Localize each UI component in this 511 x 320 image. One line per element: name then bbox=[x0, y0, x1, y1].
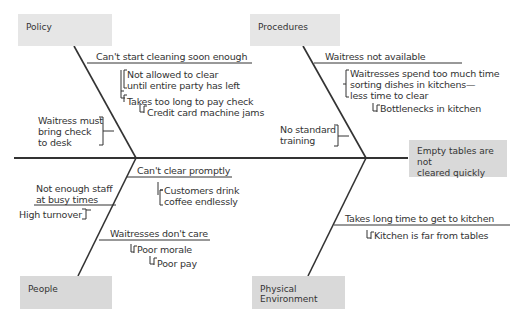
cause-people-1: Can't clear promptly bbox=[137, 165, 230, 176]
subsubcause-procedures-1a: Bottlenecks in kitchen bbox=[380, 103, 481, 114]
cause-policy-2-line3: to desk bbox=[38, 137, 71, 148]
cause-physical-1: Takes long time to get to kitchen bbox=[345, 213, 494, 224]
category-physical-label: Physical Environment bbox=[260, 284, 317, 304]
category-procedures: Procedures bbox=[250, 14, 340, 46]
effect-line-2: cleared quickly bbox=[417, 168, 499, 179]
cause-policy-2-line1: Waitress must bbox=[38, 115, 103, 126]
cause-people-2-line1: Not enough staff bbox=[36, 183, 112, 194]
subcause-procedures-1a-line1: Waitresses spend too much time bbox=[350, 68, 500, 79]
subcause-people-1a-line1: Customers drink bbox=[164, 185, 239, 196]
cause-procedures-2-line1: No standard bbox=[280, 124, 336, 135]
category-people-label: People bbox=[28, 284, 58, 294]
subcause-policy-1a-line1: Not allowed to clear bbox=[127, 69, 218, 80]
subcause-policy-1b: Takes too long to pay check bbox=[127, 96, 253, 107]
category-people: People bbox=[20, 276, 112, 309]
cause-policy-2-line2: bring check bbox=[38, 126, 91, 137]
cause-procedures-1: Waitress not available bbox=[325, 51, 426, 62]
subcause-procedures-1a-line3: less time to clear bbox=[350, 90, 428, 101]
subcause-people-1a-line2: coffee endlessly bbox=[164, 196, 238, 207]
cause-people-2-line2: at busy times bbox=[36, 194, 98, 205]
category-policy-label: Policy bbox=[26, 22, 52, 32]
subsubcause-policy-1b: Credit card machine jams bbox=[147, 107, 264, 118]
category-physical-environment: Physical Environment bbox=[252, 276, 345, 309]
cause-procedures-2-line2: training bbox=[280, 135, 315, 146]
category-policy: Policy bbox=[18, 14, 112, 46]
cause-people-3: Waitresses don't care bbox=[110, 228, 208, 239]
effect-line-1: Empty tables are not bbox=[417, 146, 499, 168]
effect-box: Empty tables are not cleared quickly bbox=[409, 140, 507, 177]
subcause-people-2a: High turnover bbox=[19, 209, 82, 220]
cause-policy-1: Can't start cleaning soon enough bbox=[96, 51, 247, 62]
subsubcause-people-3a: Poor pay bbox=[157, 258, 197, 269]
subcause-people-3a: Poor morale bbox=[137, 244, 192, 255]
subcause-physical-1a: Kitchen is far from tables bbox=[374, 230, 488, 241]
category-procedures-label: Procedures bbox=[258, 22, 308, 32]
subcause-policy-1a-line2: until entire party has left bbox=[127, 80, 240, 91]
subcause-procedures-1a-line2: sorting dishes in kitchens— bbox=[350, 79, 475, 90]
